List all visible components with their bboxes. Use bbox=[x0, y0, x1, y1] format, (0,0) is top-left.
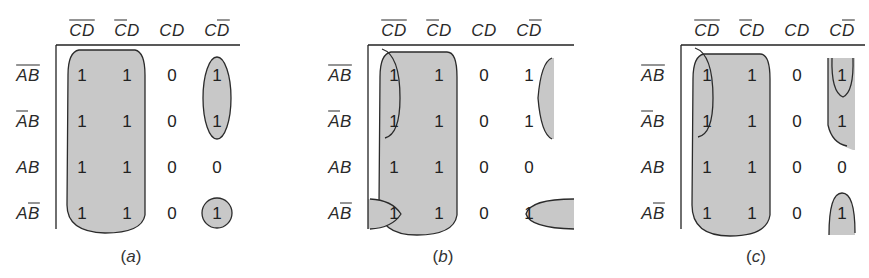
kmap-cell: 1 bbox=[524, 67, 533, 84]
column-header: CD bbox=[69, 22, 95, 39]
column-header: CD bbox=[739, 22, 765, 39]
kmap-cell: 1 bbox=[837, 113, 846, 130]
kmap-cell: 1 bbox=[77, 67, 86, 84]
kmap-cell: 0 bbox=[479, 113, 488, 130]
column-header: CD bbox=[829, 22, 855, 39]
row-header: AB bbox=[328, 67, 352, 84]
panel-caption-c: (c) bbox=[746, 247, 766, 267]
variable-c-complement: C bbox=[69, 21, 82, 40]
kmap-cell: 1 bbox=[389, 67, 398, 84]
kmap-cell: 1 bbox=[212, 113, 221, 130]
variable-a: A bbox=[641, 158, 653, 177]
variable-c: C bbox=[159, 21, 172, 40]
kmap-cell: 1 bbox=[747, 113, 756, 130]
row-header: AB bbox=[16, 113, 40, 130]
variable-b: B bbox=[653, 112, 665, 131]
variable-d-complement: D bbox=[707, 21, 720, 40]
kmap-cell: 1 bbox=[747, 159, 756, 176]
column-header: CD bbox=[784, 22, 810, 39]
kmap-cell: 1 bbox=[837, 205, 846, 222]
kmap-cell: 1 bbox=[702, 113, 711, 130]
kmap-cell: 1 bbox=[212, 205, 221, 222]
variable-d: D bbox=[439, 21, 452, 40]
variable-a: A bbox=[328, 204, 340, 223]
kmap-cell: 0 bbox=[524, 159, 533, 176]
kmap-cell: 0 bbox=[479, 67, 488, 84]
kmap-cell: 1 bbox=[212, 67, 221, 84]
column-header: CD bbox=[516, 22, 542, 39]
variable-d: D bbox=[797, 21, 810, 40]
variable-d: D bbox=[752, 21, 765, 40]
kmap-cell: 0 bbox=[167, 67, 176, 84]
kmap-cell: 1 bbox=[77, 159, 86, 176]
kmap-cell: 1 bbox=[122, 113, 131, 130]
column-header: CD bbox=[159, 22, 185, 39]
variable-b: B bbox=[340, 158, 352, 177]
variable-b: B bbox=[653, 158, 665, 177]
variable-a: A bbox=[16, 204, 28, 223]
variable-a-complement: A bbox=[328, 112, 340, 131]
row-header: AB bbox=[641, 205, 665, 222]
variable-b-complement: B bbox=[653, 66, 665, 85]
kmap-cell: 1 bbox=[434, 113, 443, 130]
kmap-b-shapes bbox=[312, 0, 612, 278]
kmap-cell: 1 bbox=[434, 67, 443, 84]
kmap-cell: 1 bbox=[389, 113, 398, 130]
kmap-cell: 1 bbox=[702, 159, 711, 176]
variable-a: A bbox=[16, 158, 28, 177]
kmap-cell: 0 bbox=[167, 113, 176, 130]
variable-a-complement: A bbox=[641, 66, 653, 85]
kmap-cell: 0 bbox=[792, 205, 801, 222]
variable-b-complement: B bbox=[28, 204, 40, 223]
variable-a: A bbox=[328, 158, 340, 177]
panel-caption-b: (b) bbox=[433, 247, 454, 267]
variable-d-complement: D bbox=[82, 21, 95, 40]
variable-b-complement: B bbox=[28, 66, 40, 85]
row-header: AB bbox=[641, 159, 665, 176]
kmap-cell: 0 bbox=[479, 205, 488, 222]
kmap-cell: 0 bbox=[167, 205, 176, 222]
variable-a-complement: A bbox=[328, 66, 340, 85]
row-header: AB bbox=[328, 159, 352, 176]
column-header: CD bbox=[694, 22, 720, 39]
column-header: CD bbox=[204, 22, 230, 39]
kmap-a-shapes bbox=[0, 0, 300, 278]
variable-d: D bbox=[172, 21, 185, 40]
kmap-cell: 1 bbox=[702, 67, 711, 84]
kmap-cell: 0 bbox=[212, 159, 221, 176]
row-header: AB bbox=[641, 67, 665, 84]
kmap-cell: 1 bbox=[122, 67, 131, 84]
column-header: CD bbox=[471, 22, 497, 39]
kmap-c-shapes bbox=[625, 0, 869, 278]
variable-c: C bbox=[784, 21, 797, 40]
variable-c: C bbox=[204, 21, 217, 40]
kmap-cell: 1 bbox=[77, 205, 86, 222]
kmap-cell: 1 bbox=[524, 205, 533, 222]
variable-b-complement: B bbox=[653, 204, 665, 223]
column-header: CD bbox=[381, 22, 407, 39]
kmap-cell: 1 bbox=[122, 159, 131, 176]
kmap-cell: 0 bbox=[167, 159, 176, 176]
variable-d: D bbox=[127, 21, 140, 40]
row-header: AB bbox=[328, 205, 352, 222]
variable-c-complement: C bbox=[739, 21, 752, 40]
variable-b-complement: B bbox=[340, 66, 352, 85]
kmap-cell: 1 bbox=[434, 159, 443, 176]
kmap-cell: 1 bbox=[837, 67, 846, 84]
variable-c-complement: C bbox=[381, 21, 394, 40]
group-cdbar-rows-1-2-half bbox=[538, 58, 554, 139]
variable-c-complement: C bbox=[114, 21, 127, 40]
variable-d-complement: D bbox=[394, 21, 407, 40]
variable-d-complement: D bbox=[842, 21, 855, 40]
row-header: AB bbox=[16, 159, 40, 176]
kmap-panel-b: CDCDCDCDABABABAB1101110111001101 (b) bbox=[312, 0, 612, 278]
kmap-panel-c: CDCDCDCDABABABAB1101110111001101 (c) bbox=[625, 0, 869, 278]
kmap-cell: 1 bbox=[434, 205, 443, 222]
kmap-cell: 1 bbox=[747, 205, 756, 222]
variable-a-complement: A bbox=[16, 112, 28, 131]
variable-c-complement: C bbox=[694, 21, 707, 40]
variable-b: B bbox=[28, 158, 40, 177]
kmap-cell: 0 bbox=[792, 159, 801, 176]
column-header: CD bbox=[426, 22, 452, 39]
kmap-cell: 0 bbox=[792, 67, 801, 84]
